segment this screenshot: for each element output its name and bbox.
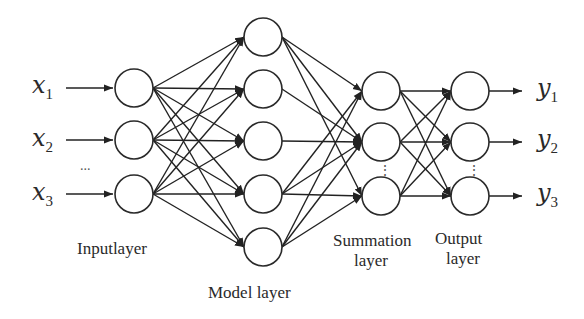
model-layer-nodes	[244, 18, 282, 266]
input-label-x2: x2	[32, 124, 53, 155]
neural-network-diagram: x1 x2 x3 ...	[0, 0, 584, 319]
output-node-2	[451, 123, 489, 161]
input-layer-label: Inputlayer	[77, 239, 147, 258]
summation-layer-label-line2: layer	[354, 251, 388, 270]
output-label-y3: y3	[536, 179, 558, 210]
edges-model-to-summation	[282, 37, 362, 247]
input-label-x3: x3	[32, 178, 53, 209]
model-node-2	[244, 70, 282, 108]
output-layer-label-line1: Output	[435, 229, 483, 248]
model-layer-label: Model layer	[208, 283, 291, 302]
output-label-y2: y2	[536, 125, 558, 156]
input-node-2	[115, 121, 153, 159]
output-node-3	[451, 177, 489, 215]
summation-layer-nodes: ⋮	[362, 72, 400, 215]
edges-summation-to-output	[400, 91, 451, 196]
output-layer-label-line2: layer	[446, 249, 480, 268]
edges-input-to-model	[153, 37, 244, 247]
model-node-3	[244, 122, 282, 160]
summation-node-3	[362, 177, 400, 215]
input-label-x1: x1	[32, 71, 53, 102]
network-canvas: x1 x2 x3 ...	[0, 0, 584, 319]
output-ellipsis: ⋮	[467, 163, 481, 178]
input-node-3	[115, 175, 153, 213]
summation-layer-label-line1: Summation	[333, 231, 412, 250]
input-ellipsis: ...	[80, 158, 91, 173]
input-arrows	[66, 88, 113, 194]
output-labels: y1 y2 y3	[536, 74, 558, 210]
output-layer-nodes: ⋮	[451, 72, 489, 215]
input-layer-nodes	[115, 69, 153, 213]
model-node-4	[244, 175, 282, 213]
model-node-5	[244, 228, 282, 266]
output-node-1	[451, 72, 489, 110]
input-node-1	[115, 69, 153, 107]
summation-node-2	[362, 123, 400, 161]
summation-node-1	[362, 72, 400, 110]
summation-ellipsis: ⋮	[378, 163, 392, 178]
model-node-1	[244, 18, 282, 56]
output-label-y1: y1	[536, 74, 558, 105]
output-arrows	[489, 91, 522, 196]
